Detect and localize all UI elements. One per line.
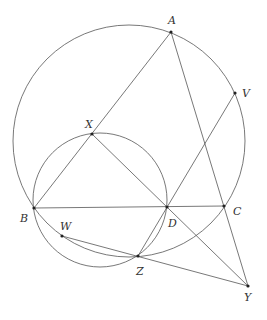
circumcircle-ABC [13,25,245,257]
point-V [233,91,236,94]
segment-VZ [138,93,235,256]
point-A [169,30,172,33]
label-A: A [167,14,176,27]
point-Y [246,284,249,287]
label-X: X [84,118,94,131]
point-C [222,204,225,207]
label-D: D [167,217,177,230]
label-B: B [19,212,28,225]
segment-AB [34,32,171,208]
label-W: W [60,220,73,233]
point-W [60,234,63,237]
segment-BC [34,206,224,208]
geometry-diagram: AVXBDCWZY [0,0,267,320]
label-Z: Z [135,265,144,278]
segment-WY [62,236,248,286]
label-V: V [242,87,251,100]
point-D [165,205,168,208]
point-B [32,206,35,209]
segment-AY [171,32,248,286]
label-C: C [233,205,242,218]
circle-XBD [33,133,167,267]
point-Z [136,254,139,257]
point-X [90,132,93,135]
label-Y: Y [244,291,253,304]
